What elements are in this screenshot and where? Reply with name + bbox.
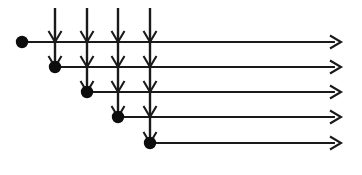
node-3 (81, 86, 93, 98)
node-5 (144, 137, 156, 149)
horizontal-arrow-4 (118, 111, 341, 124)
cascade-arrow-lattice-diagram (0, 0, 362, 175)
diagram-canvas (0, 0, 362, 175)
horizontal-arrow-3 (87, 86, 341, 99)
horizontal-arrow-5 (150, 137, 341, 150)
node-2 (49, 61, 61, 73)
node-4 (112, 111, 124, 123)
node-1 (16, 36, 28, 48)
horizontal-arrow-2 (55, 61, 341, 74)
horizontal-arrow-1 (22, 36, 341, 49)
